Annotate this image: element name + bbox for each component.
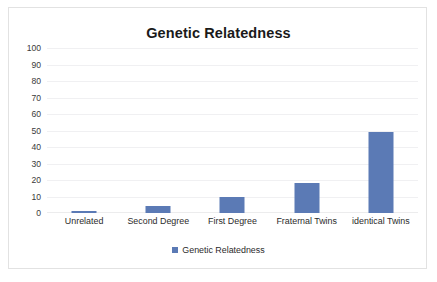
y-axis-tick-label: 20: [9, 175, 41, 185]
plot-wrapper: 1009080706050403020100 UnrelatedSecond D…: [9, 48, 428, 223]
bar-slot: [195, 48, 269, 213]
y-axis-tick-label: 30: [9, 159, 41, 169]
bar-slot: [121, 48, 195, 213]
x-axis-category-label: Fraternal Twins: [276, 216, 337, 226]
y-axis-tick-label: 0: [9, 208, 41, 218]
legend-label: Genetic Relatedness: [182, 245, 264, 255]
y-axis-tick-label: 50: [9, 126, 41, 136]
bar[interactable]: [368, 132, 393, 213]
bars-layer: [47, 48, 418, 213]
x-axis: UnrelatedSecond DegreeFirst DegreeFrater…: [47, 216, 418, 232]
bar-slot: [270, 48, 344, 213]
bar-slot: [344, 48, 418, 213]
legend-swatch-icon: [172, 247, 178, 253]
x-axis-category-label: First Degree: [208, 216, 257, 226]
y-axis-tick-label: 40: [9, 142, 41, 152]
bar[interactable]: [220, 197, 245, 213]
y-axis: 1009080706050403020100: [9, 48, 45, 213]
y-axis-tick-label: 10: [9, 192, 41, 202]
y-axis-tick-label: 90: [9, 60, 41, 70]
chart-title: Genetic Relatedness: [9, 25, 428, 41]
x-axis-category-label: identical Twins: [352, 216, 410, 226]
bar[interactable]: [72, 211, 97, 213]
y-axis-tick-label: 70: [9, 93, 41, 103]
bar-slot: [47, 48, 121, 213]
y-axis-tick-label: 100: [9, 43, 41, 53]
bar[interactable]: [294, 183, 319, 213]
chart-card: Genetic Relatedness 10090807060504030201…: [8, 7, 427, 269]
x-axis-category-label: Second Degree: [127, 216, 189, 226]
x-axis-category-label: Unrelated: [65, 216, 103, 226]
bar[interactable]: [146, 206, 171, 213]
plot-area: [47, 48, 418, 213]
chart-legend: Genetic Relatedness: [9, 245, 428, 255]
y-axis-tick-label: 80: [9, 76, 41, 86]
y-axis-tick-label: 60: [9, 109, 41, 119]
